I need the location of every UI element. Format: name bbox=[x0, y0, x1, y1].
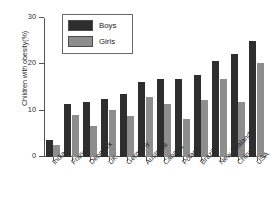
girls-swatch-icon bbox=[68, 36, 93, 47]
y-tick: 30 bbox=[39, 17, 44, 18]
obesity-bar-chart: Children with obesity(%) 0102030 IndiaFr… bbox=[0, 0, 274, 219]
bar-group bbox=[138, 18, 153, 157]
x-axis-labels: IndiaFranceDenmarkUKGermanyAustraliaCana… bbox=[44, 160, 274, 218]
y-axis-title: Children with obesity(%) bbox=[20, 4, 29, 134]
bar-girls bbox=[220, 79, 227, 157]
bar-boys bbox=[120, 94, 127, 157]
bar-boys bbox=[212, 61, 219, 157]
y-tick: 0 bbox=[39, 156, 44, 157]
bar-group bbox=[194, 18, 209, 157]
y-tick-label: 20 bbox=[28, 58, 36, 67]
y-tick-label: 10 bbox=[28, 105, 36, 114]
legend-label-girls: Girls bbox=[99, 37, 115, 46]
bar-girls bbox=[201, 100, 208, 157]
bar-boys bbox=[46, 140, 53, 157]
bar-girls bbox=[257, 63, 264, 157]
chart-legend: Boys Girls bbox=[62, 14, 133, 54]
bar-boys bbox=[249, 41, 256, 157]
bar-boys bbox=[64, 104, 71, 157]
y-tick-label: 30 bbox=[28, 12, 36, 21]
boys-swatch-icon bbox=[68, 20, 93, 31]
bar-group bbox=[212, 18, 227, 157]
y-tick-label: 0 bbox=[32, 151, 36, 160]
bar-group bbox=[175, 18, 190, 157]
bar-girls bbox=[109, 110, 116, 157]
legend-label-boys: Boys bbox=[99, 21, 116, 30]
bar-group bbox=[157, 18, 172, 157]
bar-group bbox=[46, 18, 61, 157]
y-tick: 20 bbox=[39, 63, 44, 64]
y-tick: 10 bbox=[39, 110, 44, 111]
